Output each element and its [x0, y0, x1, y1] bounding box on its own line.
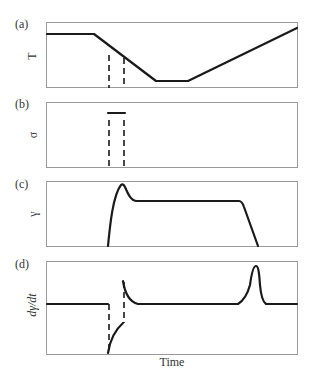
panel-d-ylabel: dγ/dt: [25, 293, 39, 317]
panel-b-ylabel: σ: [26, 131, 40, 138]
panel-c-frame: [47, 182, 298, 247]
panel-d: (d) dγ/dt: [15, 257, 298, 355]
panel-b: (b) σ: [15, 97, 298, 168]
panel-a-frame: [47, 23, 298, 88]
rate-negative-branch: [108, 323, 123, 353]
panel-c-label: (c): [15, 177, 28, 191]
panel-d-label: (d): [15, 257, 29, 271]
panel-b-label: (b): [15, 97, 29, 111]
panel-a-ylabel: T: [25, 52, 39, 60]
panel-a-label: (a): [15, 17, 28, 31]
x-axis-label: Time: [160, 355, 185, 369]
panel-c-ylabel: γ: [26, 211, 40, 218]
rate-curve-right: [123, 266, 297, 304]
temperature-curve: [47, 28, 297, 81]
panel-c: (c) γ: [15, 177, 298, 247]
panel-b-frame: [47, 103, 298, 168]
strain-curve: [108, 184, 258, 246]
panel-a: (a) T: [15, 17, 298, 88]
shape-memory-diagram: (a) T (b) σ (c) γ (d) dγ/dt Time: [0, 0, 312, 382]
